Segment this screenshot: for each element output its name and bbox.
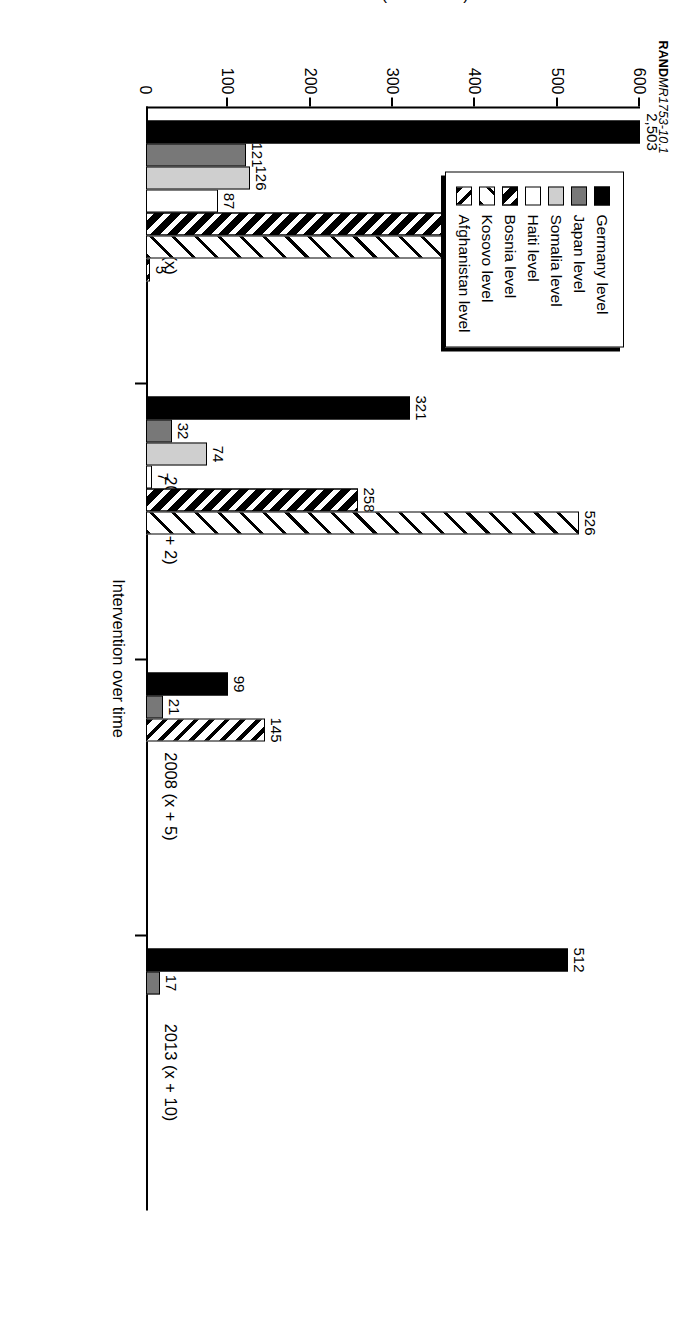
legend-item: Germany level	[594, 186, 611, 332]
white-swatch	[526, 186, 542, 205]
bar-value-label: 21	[164, 698, 184, 715]
legend-item: Japan level	[571, 186, 588, 332]
bar: 526	[146, 511, 579, 534]
bar: 258	[146, 488, 358, 511]
y-tick-label: 500	[547, 48, 567, 94]
bar: 121	[146, 143, 246, 166]
y-tick-label: 0	[135, 48, 155, 94]
legend-item-label: Germany level	[594, 214, 611, 314]
y-tick-mark	[473, 97, 475, 106]
bar-value-label: 74	[208, 445, 228, 462]
bar-value-label: 87	[219, 192, 239, 209]
y-tick-label: 100	[217, 48, 237, 94]
legend-item-label: Haiti level	[525, 214, 542, 281]
x-axis-tick-mark	[135, 658, 146, 660]
y-tick-label: 200	[300, 48, 320, 94]
bar: 87	[146, 189, 218, 212]
x-axis-tick-mark	[135, 382, 146, 384]
medium-gray-swatch	[572, 186, 588, 205]
figure-stage: RANDMR1753-10.1 0100200300400500600 2003…	[0, 0, 684, 1333]
bar: 512	[146, 948, 568, 971]
bar-value-label: 2,503	[642, 113, 662, 151]
bar-value-label: 7	[153, 472, 173, 480]
sparse-hatch-swatch	[480, 186, 496, 205]
bar-value-label: 321	[411, 395, 431, 420]
y-axis-title: Soldiers (thousands)	[317, 0, 468, 4]
y-tick-mark	[556, 97, 558, 106]
bar: 321	[146, 396, 410, 419]
x-axis-tick-mark	[135, 934, 146, 936]
legend-item-label: Somalia level	[548, 214, 565, 306]
bar: 99	[146, 672, 228, 695]
light-gray-swatch	[549, 186, 565, 205]
y-tick-label: 400	[464, 48, 484, 94]
y-axis-tick: 100	[227, 106, 228, 1210]
dense-hatch-swatch	[457, 186, 473, 205]
y-tick-mark	[391, 97, 393, 106]
figure-id-rand: RAND	[656, 40, 670, 77]
bar: 32	[146, 419, 172, 442]
y-tick-mark	[226, 97, 228, 106]
bar-value-label: 145	[266, 717, 286, 742]
bar: 2,503	[146, 120, 640, 143]
legend-item: Haiti level	[525, 186, 542, 332]
bar-value-label: 32	[173, 422, 193, 439]
bar-value-label: 526	[580, 510, 600, 535]
legend: Germany levelJapan levelSomalia levelHai…	[445, 171, 624, 347]
y-axis-tick: 300	[392, 106, 393, 1210]
bar-value-label: 512	[569, 947, 589, 972]
bar: 7	[146, 465, 152, 488]
bar: 126	[146, 166, 250, 189]
legend-item-label: Japan level	[571, 214, 588, 292]
bar-value-label: 5	[151, 265, 171, 273]
bar: 74	[146, 442, 207, 465]
bar: 145	[146, 718, 265, 741]
legend-item: Afghanistan level	[456, 186, 473, 332]
bar: 5	[146, 258, 150, 281]
black-hatch-swatch	[503, 186, 519, 205]
bar: 17	[146, 971, 160, 994]
legend-item-label: Bosnia level	[502, 214, 519, 298]
y-tick-mark	[309, 97, 311, 106]
y-tick-mark	[638, 97, 640, 106]
bar-value-label: 258	[359, 487, 379, 512]
bar-value-label: 121	[247, 142, 267, 167]
y-tick-label: 300	[382, 48, 402, 94]
solid-black-swatch	[595, 186, 611, 205]
legend-item: Somalia level	[548, 186, 565, 332]
bar: 21	[146, 695, 163, 718]
x-axis-title: Intervention over time	[109, 106, 128, 1210]
legend-item: Bosnia level	[502, 186, 519, 332]
bar-value-label: 17	[161, 974, 181, 991]
legend-item-label: Kosovo level	[479, 214, 496, 302]
legend-item: Kosovo level	[479, 186, 496, 332]
bar-value-label: 99	[229, 675, 249, 692]
bar-value-label: 126	[251, 165, 271, 190]
y-axis-tick: 600	[639, 106, 640, 1210]
legend-item-label: Afghanistan level	[456, 214, 473, 332]
y-tick-label: 600	[629, 48, 649, 94]
y-axis-tick: 200	[310, 106, 311, 1210]
